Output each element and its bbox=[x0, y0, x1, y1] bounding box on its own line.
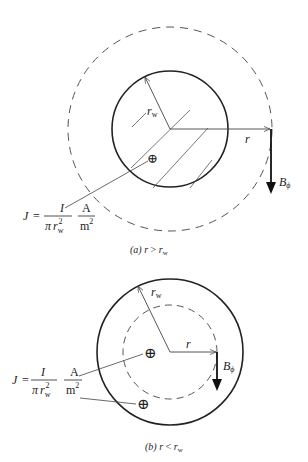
svg-text:A: A bbox=[82, 201, 91, 215]
svg-text:J: J bbox=[23, 209, 29, 223]
svg-text:=: = bbox=[33, 209, 40, 223]
svg-text:πrw2: πrw2 bbox=[32, 381, 51, 399]
b-field-arrowhead bbox=[266, 182, 276, 194]
current-into-page-icon: ⊕ bbox=[137, 396, 150, 412]
current-density-formula-b: J = I πrw2 A m2 bbox=[12, 365, 82, 399]
svg-text:rw: rw bbox=[151, 285, 162, 300]
leader-line bbox=[65, 161, 148, 208]
leader-line bbox=[80, 398, 136, 404]
radius-rw-arrow bbox=[145, 77, 170, 129]
svg-text:Bϕ: Bϕ bbox=[279, 175, 290, 190]
current-hatching bbox=[131, 110, 212, 188]
svg-text:Bϕ: Bϕ bbox=[223, 359, 234, 374]
svg-text:A: A bbox=[70, 365, 79, 379]
svg-text:I: I bbox=[59, 201, 65, 215]
caption-a: (a) r > rw bbox=[130, 244, 169, 257]
label-r: r bbox=[245, 132, 250, 146]
svg-text:πrw2: πrw2 bbox=[45, 217, 64, 235]
current-density-formula-a: J = I πrw2 A m2 bbox=[23, 201, 95, 235]
svg-text:I: I bbox=[40, 365, 46, 379]
caption-b: (b) r < rw bbox=[145, 441, 184, 454]
figure-a: rw r Bϕ ⊕ (a) r > rw bbox=[65, 27, 290, 257]
svg-text:m2: m2 bbox=[80, 217, 93, 233]
svg-text:J: J bbox=[12, 373, 18, 387]
magnetic-field-wire-diagram: rw r Bϕ ⊕ (a) r > rw J = I πrw2 A m2 rw … bbox=[0, 0, 308, 462]
leader-line bbox=[79, 354, 143, 376]
svg-text:=: = bbox=[22, 373, 29, 387]
figure-b: rw r Bϕ ⊕ ⊕ (b) r < rw bbox=[79, 279, 243, 454]
svg-text:rw: rw bbox=[147, 104, 158, 119]
current-into-page-icon: ⊕ bbox=[144, 345, 157, 361]
svg-text:m2: m2 bbox=[66, 381, 79, 397]
current-into-page-icon: ⊕ bbox=[147, 151, 158, 166]
label-r: r bbox=[186, 337, 191, 351]
b-field-arrowhead bbox=[212, 379, 222, 391]
